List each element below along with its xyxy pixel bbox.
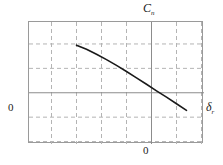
- chart-figure: Cn δr 0 0: [0, 0, 223, 165]
- y-axis-subscript: n: [151, 9, 155, 17]
- x-origin-label: 0: [143, 145, 149, 156]
- plot-frame: [28, 21, 203, 143]
- x-axis-label: δr: [206, 101, 214, 116]
- y-origin-label: 0: [8, 102, 14, 113]
- y-axis-symbol: C: [143, 1, 151, 15]
- y-axis-label: Cn: [143, 2, 155, 17]
- x-axis-subscript: r: [212, 108, 215, 116]
- data-series-curve: [29, 22, 204, 144]
